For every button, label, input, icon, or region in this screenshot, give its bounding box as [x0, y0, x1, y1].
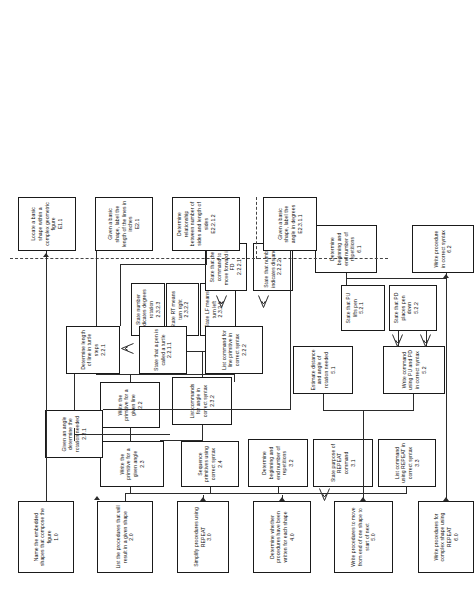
node-3-1[interactable]: State purpose of REPEAT command 3.1	[313, 439, 373, 487]
edge-6-bus	[346, 278, 446, 279]
node-6-2-number: 6.2	[446, 245, 453, 252]
edge-5-0-to-5-2	[413, 394, 414, 411]
node-3-0[interactable]: Simplify procedures using REPEAT 3.0	[177, 501, 229, 573]
edge-3-0-to-3-3	[406, 487, 407, 494]
node-2-3-number: 2.3	[139, 460, 146, 467]
node-5-2-1-number: 5.2.1	[358, 289, 365, 327]
arrowhead-E1-1	[43, 253, 49, 257]
node-3-3-number: 3.3	[414, 459, 421, 466]
entry-level-divider-upper	[258, 258, 388, 259]
node-3-3-label: List command using REPEAT in correct syn…	[394, 442, 414, 484]
edge-bus-5-0	[323, 410, 413, 411]
node-2-2-1[interactable]: Determine length of line in turtle steps…	[66, 326, 120, 374]
node-2-2-1-number: 2.2.1	[100, 344, 107, 356]
entry-level-divider-cap	[256, 197, 257, 259]
node-E1-1[interactable]: Locate a basic shape within a complex ge…	[18, 197, 76, 251]
node-6-1-number: 6.1	[356, 245, 363, 252]
node-6-0[interactable]: Write procedures for complex shape using…	[418, 501, 474, 573]
node-3-0-number: 3.0	[206, 533, 213, 540]
node-2-2-1-1-number: 2.2.1.1	[166, 342, 173, 358]
node-2-4[interactable]: Sequence primitives using correct syntax…	[181, 441, 239, 487]
node-4-0-number: 4.0	[289, 533, 296, 540]
node-5-2-label: Write command using PU and PD in correct…	[401, 349, 421, 391]
node-E2-2-1-2-label: Determine relationship between number of…	[176, 202, 209, 246]
node-5-1-number: 5.1	[330, 366, 337, 373]
edge-3-0-to-3-2	[278, 487, 279, 494]
edge-seg-a	[203, 495, 204, 501]
node-2-2-1-1[interactable]: State that a pen is called a turtle 2.2.…	[139, 326, 187, 374]
edge-2-3-1-to-2-2-1	[74, 374, 75, 410]
node-5-0-label: Write procedures to move from end of one…	[350, 504, 370, 570]
triangle-connector-2-2-2-2	[258, 295, 269, 308]
node-E1-1-label: Locate a basic shape within a complex ge…	[30, 200, 57, 248]
node-2-2-2-1-number: 2.2.2.1	[236, 259, 243, 275]
node-2-3-2[interactable]: List commands for angle in correct synta…	[172, 377, 232, 425]
node-1-0-label: Name the embedded shapes that compose th…	[33, 504, 53, 570]
node-2-3-2-label: List commands for angle in correct synta…	[189, 380, 209, 422]
node-2-3-label: Write the primitive for a given angle	[119, 444, 139, 484]
node-5-2-2[interactable]: State that PD places pen down 5.2.2	[389, 285, 437, 331]
node-5-0-number: 5.0	[370, 533, 377, 540]
node-E2-1[interactable]: Given a basic shape, label the length of…	[95, 197, 153, 251]
node-2-0-number: 2.0	[128, 533, 135, 540]
node-2-0[interactable]: List the procedures that will result in …	[97, 501, 153, 573]
node-4-0[interactable]: Determine whether procedures have been w…	[253, 501, 311, 573]
node-2-3-2-3-number: 2.3.2.3	[155, 302, 162, 318]
edge-1-0-to-E1-1	[46, 251, 47, 501]
node-2-3[interactable]: Write the primitive for a given angle 2.…	[100, 441, 164, 487]
edge-2-3-down	[130, 434, 170, 435]
edge-E2-2-bus	[120, 264, 206, 265]
node-3-2[interactable]: Determine beginning and end number of re…	[248, 439, 308, 487]
node-5-2-1[interactable]: State that PU lifts pen 5.2.1	[341, 285, 385, 331]
edge-2-0-to-3-0	[125, 494, 126, 501]
edge-6-0-to-6-1	[346, 273, 347, 285]
node-E2-1-label: Given a basic shape, label the length of…	[107, 200, 134, 248]
node-3-0-label: Simplify procedures using REPEAT	[193, 504, 206, 570]
edge-2-3-up	[74, 434, 130, 435]
node-6-0-label: Write procedures for complex shape using…	[433, 504, 453, 570]
node-2-2[interactable]: Write the primitive for a given line 2.2	[100, 382, 160, 428]
node-2-4-number: 2.4	[217, 460, 224, 467]
node-2-2-1-label: Determine length of line in turtle steps	[80, 329, 100, 371]
edge-2-0-to-2-3	[130, 487, 131, 494]
node-4-0-label: Determine whether procedures have been w…	[269, 504, 289, 570]
edge-2-3-1-down	[103, 409, 290, 410]
node-2-2-2-number: 2.2.2	[241, 344, 248, 356]
triangle-connector-2-2-1-1	[121, 343, 134, 354]
node-5-0[interactable]: Write procedures to move from end of one…	[334, 501, 393, 573]
node-1-0[interactable]: Name the embedded shapes that compose th…	[18, 501, 74, 573]
edge-seg-b	[282, 495, 283, 501]
node-E1-1-number: E1.1	[57, 219, 64, 230]
node-E2-2-1-2-number: E2.2.1.2	[210, 201, 217, 247]
node-6-0-number: 6.0	[453, 533, 460, 540]
triangle-connector-3-1	[319, 488, 330, 501]
node-5-1-label: Estimate distance and angle of rotation …	[310, 349, 330, 391]
node-6-1[interactable]: Determine beginning and end number of re…	[315, 225, 377, 273]
node-5-1[interactable]: Estimate distance and angle of rotation …	[293, 346, 353, 394]
node-3-2-label: Determine beginning and end number of re…	[261, 442, 288, 484]
edge-6-0-to-6-2	[446, 273, 447, 501]
entry-level-divider-lower	[10, 258, 260, 259]
edge-2-3-to-2-2	[130, 428, 131, 441]
node-3-1-label: State purpose of REPEAT command	[330, 442, 350, 484]
node-3-3[interactable]: List command using REPEAT in correct syn…	[378, 439, 436, 487]
node-2-3-2-2-label: State RT means turn right	[170, 291, 183, 328]
edge-5-2-to-5-2-2	[398, 331, 399, 346]
node-5-2-2-label: State that PD places pen down	[393, 293, 412, 324]
node-2-2-2-2-number: 2.2.2.2	[276, 259, 283, 275]
edge-5-0-to-5-1	[323, 394, 324, 411]
node-E2-2-1-2[interactable]: Determine relationship between number of…	[172, 197, 240, 251]
node-E2-3-1-1[interactable]: Given a basic shape, label the angle in …	[263, 197, 317, 251]
edge-E2-2-1-2-in	[206, 251, 207, 265]
node-2-2-label: Write the primitive for a given line	[117, 385, 137, 425]
node-1-0-number: 1.0	[53, 533, 60, 540]
node-5-2[interactable]: Write command using PU and PD in correct…	[383, 346, 445, 394]
edge-5-2-to-5-2-1	[426, 331, 427, 346]
edge-2-2-to-2-2-2-b	[234, 374, 235, 382]
node-6-2[interactable]: Write procedure in correct syntax 6.2	[412, 225, 474, 273]
edge-5-0-stem	[363, 411, 364, 495]
node-3-2-number: 3.2	[288, 459, 295, 466]
node-2-2-2[interactable]: List command for line primitive in corre…	[205, 326, 263, 374]
node-6-2-label: Write procedure in correct syntax	[433, 228, 446, 270]
